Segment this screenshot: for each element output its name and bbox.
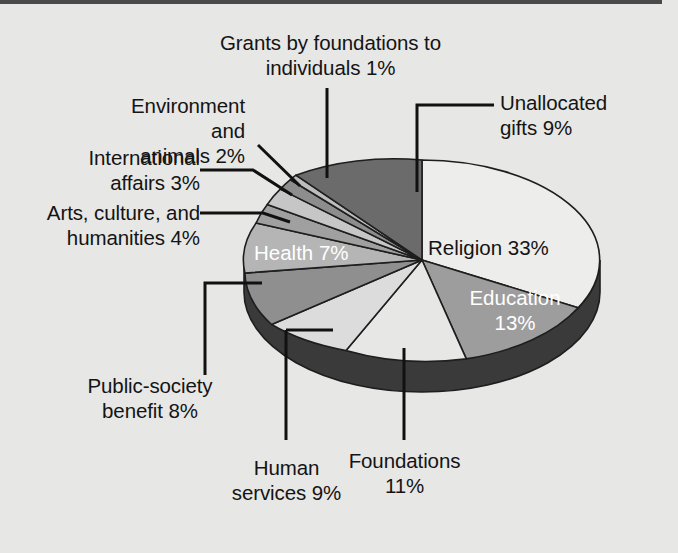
leader-line-environment <box>258 145 300 186</box>
chart-figure: Grants by foundations to individuals 1% … <box>0 0 678 553</box>
label-grants-to-individuals: Grants by foundations to individuals 1% <box>198 30 463 80</box>
label-unallocated-gifts: Unallocated gifts 9% <box>500 90 665 140</box>
label-education: Education 13% <box>450 285 580 335</box>
label-international-affairs: International affairs 3% <box>50 145 200 195</box>
label-health: Health 7% <box>254 240 374 265</box>
label-arts-culture-humanities: Arts, culture, and humanities 4% <box>25 200 200 250</box>
label-religion: Religion 33% <box>428 235 593 260</box>
label-foundations: Foundations 11% <box>332 448 477 498</box>
label-public-society-benefit: Public-society benefit 8% <box>60 373 240 423</box>
